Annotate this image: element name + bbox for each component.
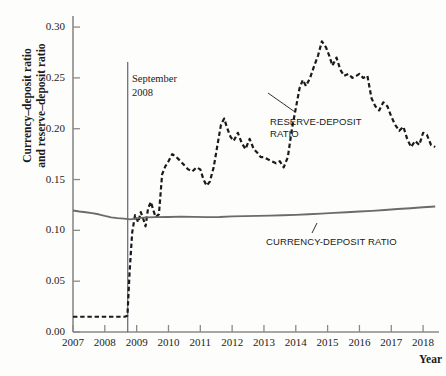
annotation-reserve-deposit-ratio: RESERVE-DEPOSIT RATIO: [270, 116, 362, 140]
chart-figure: Currency–deposit ratio and reserve–depos…: [0, 0, 446, 376]
reserve-deposit-leader-line: [268, 93, 295, 112]
y-axis-title-line1: Currency–deposit ratio: [21, 48, 33, 162]
currency-deposit-leader-line: [312, 223, 317, 233]
y-tick-label: 0.05: [31, 274, 65, 286]
y-tick-label: 0.25: [31, 71, 65, 83]
chart-canvas: [0, 0, 446, 376]
x-axis-title: Year: [419, 353, 442, 365]
y-axis-title-line2: and reserve–deposit ratio: [35, 43, 47, 167]
x-tick-label: 2018: [403, 336, 443, 348]
annotation-currency-deposit-ratio: CURRENCY-DEPOSIT RATIO: [266, 236, 397, 248]
y-tick-label: 0.10: [31, 223, 65, 235]
y-tick-label: 0.15: [31, 173, 65, 185]
annotation-september-2008: September 2008: [132, 72, 177, 99]
y-tick-label: 0.30: [31, 20, 65, 32]
y-tick-label: 0.20: [31, 122, 65, 134]
